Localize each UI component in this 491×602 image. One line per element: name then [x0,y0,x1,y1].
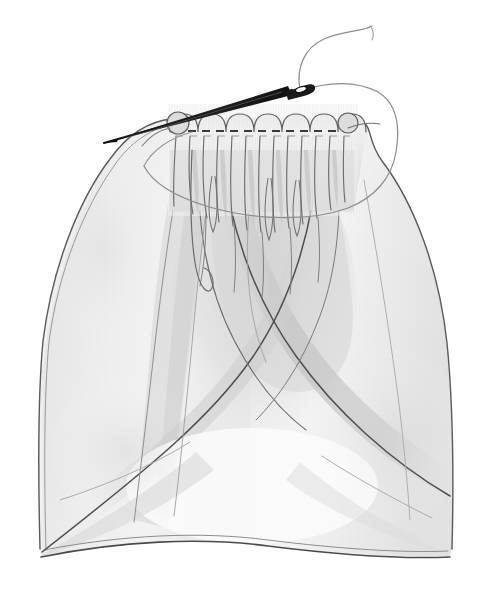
lower-right-shadow [324,350,468,522]
lower-left-shadow [50,380,206,524]
pencil-illustration [0,0,491,602]
illustration-canvas [0,0,491,602]
gather-end-right [338,113,358,133]
